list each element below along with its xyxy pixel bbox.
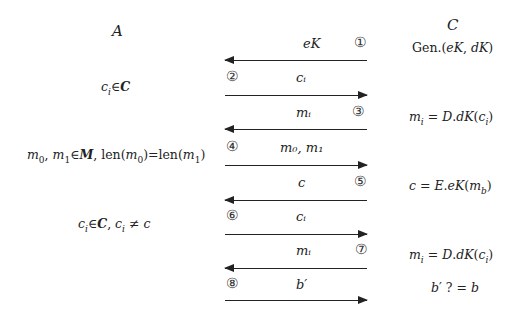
note-guess: b′ ? = b (431, 280, 479, 295)
message-7-arrow (225, 268, 367, 269)
note-decrypt-2: mi = D.dK(ci) (409, 247, 493, 265)
message-8-label: b′ (296, 277, 307, 292)
party-a-label: A (112, 22, 123, 40)
message-2-label: cᵢ (296, 70, 306, 85)
step-6-marker: ⑥ (226, 207, 239, 223)
step-8-marker: ⑧ (226, 275, 239, 291)
message-7-label: mᵢ (296, 243, 311, 258)
step-2-marker: ② (226, 68, 239, 84)
note-decrypt-1: mi = D.dK(ci) (409, 109, 493, 127)
note-gen: Gen.(eK, dK) (412, 40, 493, 55)
step-5-marker: ⑤ (354, 173, 367, 189)
message-6-arrow (225, 234, 367, 235)
message-6-label: cᵢ (296, 209, 306, 224)
step-3-marker: ③ (352, 103, 365, 119)
message-1-label: eK (303, 36, 320, 51)
note-ci-in-c: ci∈C (101, 79, 130, 97)
message-3-label: mᵢ (296, 105, 311, 120)
step-4-marker: ④ (226, 138, 239, 154)
message-8-arrow (225, 300, 367, 301)
party-c-label: C (447, 16, 458, 34)
message-4-label: m₀, m₁ (280, 140, 323, 155)
message-5-arrow (225, 200, 367, 201)
note-m0-m1: m0, m1∈M, len(m0)=len(m1) (27, 147, 205, 165)
note-ci-neq-c: ci∈C, ci ≠ c (78, 216, 150, 234)
step-7-marker: ⑦ (355, 241, 368, 257)
message-1-arrow (225, 60, 367, 61)
message-2-arrow (225, 95, 367, 96)
message-5-label: c (298, 175, 305, 190)
message-3-arrow (225, 129, 367, 130)
note-encrypt: c = E.eK(mb) (409, 178, 492, 196)
message-4-arrow (225, 165, 367, 166)
step-1-marker: ① (354, 34, 367, 50)
